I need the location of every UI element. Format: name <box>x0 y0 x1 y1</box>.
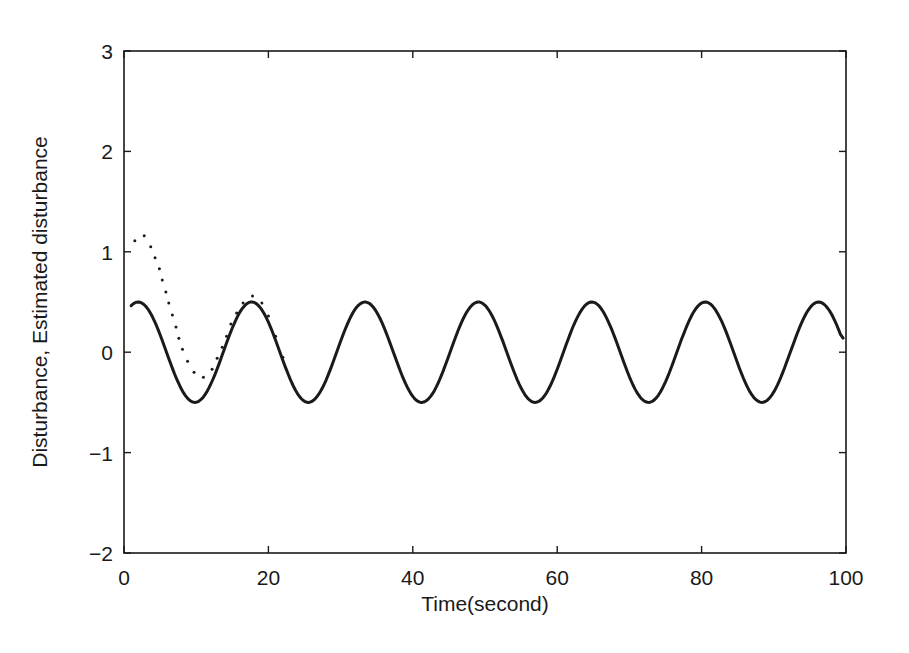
y-axis-label: Disturbance, Estimated disturbance <box>28 136 51 468</box>
series-disturbance-line <box>131 302 843 402</box>
x-tick-label: 80 <box>690 566 713 589</box>
series-estimated-disturbance-dot <box>171 314 174 317</box>
chart: 020406080100 −2−10123 Time(second) Distu… <box>0 0 909 653</box>
series-estimated-disturbance-dot <box>242 302 245 305</box>
x-tick-label: 60 <box>546 566 569 589</box>
series-estimated-disturbance-dot <box>167 302 170 305</box>
series-estimated-disturbance-dot <box>174 326 177 329</box>
series-estimated-disturbance-dot <box>211 368 214 371</box>
series-estimated-disturbance-dot <box>161 278 164 281</box>
y-tick-labels: −2−10123 <box>89 40 113 565</box>
series-estimated-disturbance-dot <box>133 239 136 242</box>
y-tick-label: −1 <box>89 442 113 465</box>
series-estimated-disturbance-dot <box>229 323 232 326</box>
series-estimated-disturbance-dot <box>164 290 167 293</box>
x-tick-label: 40 <box>401 566 424 589</box>
plot-frame <box>124 51 846 553</box>
series-estimated-disturbance-dot <box>216 357 219 360</box>
series-estimated-disturbance-dot <box>149 245 152 248</box>
axis-ticks <box>124 51 846 553</box>
plot-series <box>131 234 843 402</box>
x-tick-label: 20 <box>257 566 280 589</box>
y-tick-label: −2 <box>89 542 113 565</box>
series-estimated-disturbance-dot <box>225 335 228 338</box>
series-estimated-disturbance-dot <box>281 356 284 359</box>
series-estimated-disturbance-dot <box>158 267 161 270</box>
x-tick-label: 100 <box>828 566 863 589</box>
x-axis-label: Time(second) <box>421 592 549 615</box>
series-estimated-disturbance-dot <box>235 312 238 315</box>
series-estimated-disturbance-dot <box>251 294 254 297</box>
axes-frame <box>124 51 846 553</box>
y-tick-label: 0 <box>101 341 113 364</box>
series-estimated-disturbance-dot <box>267 315 270 318</box>
series-estimated-disturbance-dot <box>221 346 224 349</box>
series-estimated-disturbance-dot <box>181 348 184 351</box>
x-tick-label: 0 <box>118 566 130 589</box>
series-estimated-disturbance-dot <box>193 371 196 374</box>
series-estimated-disturbance-dot <box>143 234 146 237</box>
x-tick-labels: 020406080100 <box>118 566 863 589</box>
series-estimated-disturbance-dot <box>186 360 189 363</box>
series-estimated-disturbance-dot <box>274 335 277 338</box>
y-tick-label: 3 <box>101 40 113 63</box>
series-estimated-disturbance-dot <box>154 256 157 259</box>
y-tick-label: 2 <box>101 140 113 163</box>
series-estimated-disturbance-dot <box>202 376 205 379</box>
y-tick-label: 1 <box>101 241 113 264</box>
series-estimated-disturbance-dot <box>260 302 263 305</box>
series-estimated-disturbance-dot <box>177 337 180 340</box>
